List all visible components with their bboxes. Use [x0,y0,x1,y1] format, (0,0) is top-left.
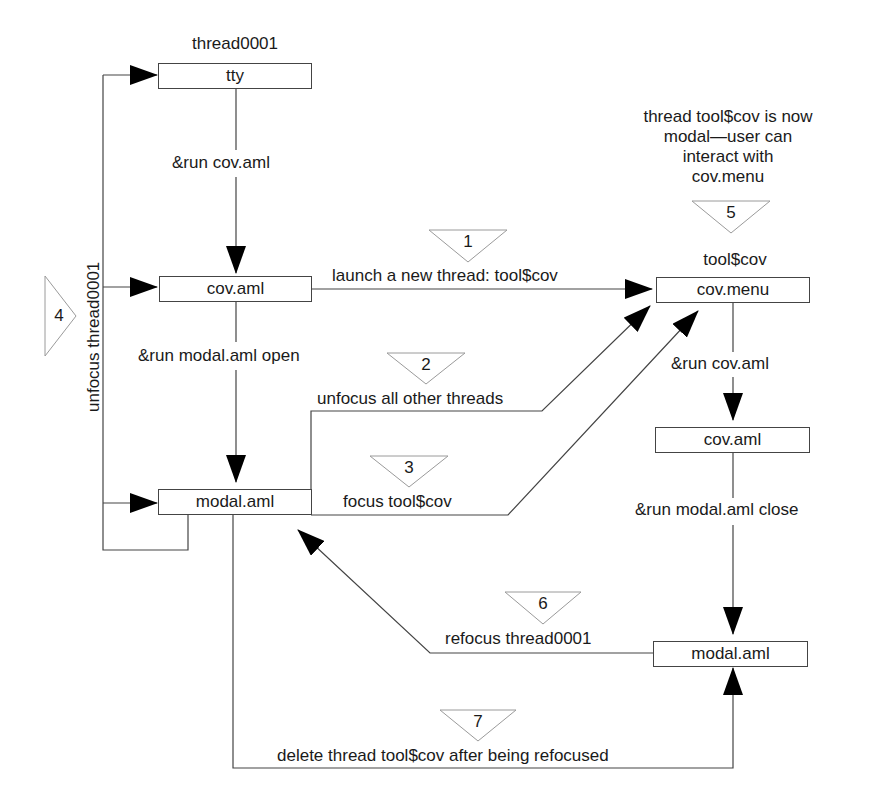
edge-label-unfocus-thread: unfocus thread0001 [84,262,104,412]
note-line-1: thread tool$cov is now [628,107,828,127]
step-6: 6 [533,594,553,614]
modal-note: thread tool$cov is now modal—user can in… [628,107,828,187]
edge-label-launch: launch a new thread: tool$cov [332,266,558,286]
edge-label-run-modal-open: &run modal.aml open [138,346,300,366]
edge-label-run-cov-left: &run cov.aml [172,153,270,173]
node-modal-aml-left[interactable]: modal.aml [158,489,312,515]
step-4: 4 [49,306,69,326]
note-line-2: modal—user can [628,127,828,147]
step-7: 7 [468,712,488,732]
step-2: 2 [416,355,436,375]
edge-label-unfocus-others: unfocus all other threads [317,389,503,409]
node-cov-aml-right[interactable]: cov.aml [655,427,810,453]
edge-label-delete: delete thread tool$cov after being refoc… [277,746,609,766]
step-1: 1 [458,232,478,252]
edge-label-run-cov-right: &run cov.aml [671,354,769,374]
step-5: 5 [721,203,741,223]
node-modal-aml-right[interactable]: modal.aml [653,641,808,667]
edge-label-refocus: refocus thread0001 [445,629,592,649]
node-cov-menu[interactable]: cov.menu [656,277,810,303]
step-3: 3 [399,458,419,478]
edge-label-run-modal-close: &run modal.aml close [635,500,798,520]
node-cov-aml-left[interactable]: cov.aml [159,276,312,302]
thread-label-tool: tool$cov [680,250,790,270]
node-tty[interactable]: tty [158,63,312,89]
thread-label-main: thread0001 [175,34,295,54]
edge-label-focus-tool: focus tool$cov [343,492,452,512]
note-line-4: cov.menu [628,167,828,187]
note-line-3: interact with [628,147,828,167]
